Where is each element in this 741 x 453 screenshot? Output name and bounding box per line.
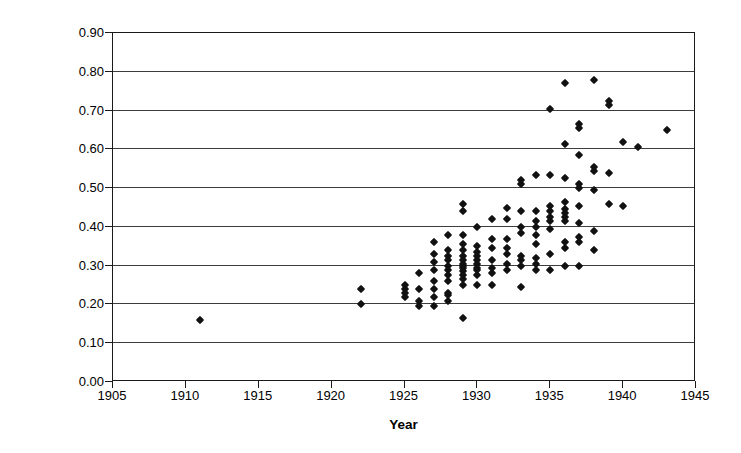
data-point bbox=[196, 316, 204, 324]
y-tick-label: 0.30 bbox=[52, 259, 104, 272]
data-point bbox=[590, 75, 598, 83]
data-point bbox=[517, 207, 525, 215]
data-point bbox=[488, 244, 496, 252]
data-point bbox=[561, 174, 569, 182]
data-point bbox=[444, 277, 452, 285]
data-point bbox=[488, 269, 496, 277]
data-point bbox=[502, 203, 510, 211]
data-point bbox=[546, 250, 554, 258]
data-point bbox=[619, 137, 627, 145]
y-tick-label: 0.50 bbox=[52, 181, 104, 194]
y-tick-mark bbox=[105, 71, 112, 72]
data-point bbox=[561, 261, 569, 269]
data-point bbox=[488, 281, 496, 289]
y-tick-mark bbox=[105, 226, 112, 227]
data-point bbox=[429, 292, 437, 300]
x-tick-mark bbox=[331, 381, 332, 388]
gridline bbox=[113, 342, 694, 343]
data-point bbox=[502, 234, 510, 242]
y-tick-mark bbox=[105, 110, 112, 111]
x-tick-mark bbox=[622, 381, 623, 388]
data-point bbox=[473, 271, 481, 279]
data-point bbox=[531, 230, 539, 238]
data-point bbox=[502, 215, 510, 223]
gridline bbox=[113, 265, 694, 266]
data-point bbox=[459, 230, 467, 238]
data-point bbox=[546, 170, 554, 178]
data-point bbox=[531, 207, 539, 215]
y-tick-label: 0.00 bbox=[52, 375, 104, 388]
x-tick-label: 1920 bbox=[301, 389, 361, 402]
data-point bbox=[488, 215, 496, 223]
x-axis-title: Year bbox=[112, 417, 695, 433]
data-point bbox=[575, 201, 583, 209]
data-point bbox=[590, 246, 598, 254]
data-point bbox=[575, 184, 583, 192]
data-point bbox=[531, 240, 539, 248]
gridline bbox=[113, 148, 694, 149]
x-tick-mark bbox=[112, 381, 113, 388]
y-tick-label: 0.90 bbox=[52, 26, 104, 39]
x-tick-label: 1915 bbox=[228, 389, 288, 402]
x-tick-label: 1945 bbox=[665, 389, 725, 402]
scatter-chart-figure: HP/cubic inch 0.000.100.200.300.400.500.… bbox=[0, 0, 741, 453]
data-point bbox=[415, 285, 423, 293]
y-tick-label: 0.70 bbox=[52, 104, 104, 117]
data-point bbox=[531, 170, 539, 178]
gridline bbox=[113, 303, 694, 304]
data-point bbox=[517, 261, 525, 269]
data-point bbox=[604, 199, 612, 207]
y-tick-mark bbox=[105, 265, 112, 266]
data-point bbox=[429, 238, 437, 246]
y-tick-mark bbox=[105, 342, 112, 343]
y-tick-mark bbox=[105, 32, 112, 33]
data-point bbox=[575, 238, 583, 246]
gridline bbox=[113, 226, 694, 227]
data-point bbox=[357, 300, 365, 308]
data-point bbox=[502, 265, 510, 273]
data-point bbox=[488, 234, 496, 242]
data-point bbox=[561, 139, 569, 147]
gridline bbox=[113, 110, 694, 111]
x-tick-label: 1930 bbox=[446, 389, 506, 402]
x-tick-label: 1910 bbox=[155, 389, 215, 402]
x-tick-mark bbox=[258, 381, 259, 388]
y-tick-label: 0.10 bbox=[52, 336, 104, 349]
gridline bbox=[113, 187, 694, 188]
data-point bbox=[619, 201, 627, 209]
data-point bbox=[517, 283, 525, 291]
data-point bbox=[561, 244, 569, 252]
data-point bbox=[502, 250, 510, 258]
data-point bbox=[633, 143, 641, 151]
x-tick-mark bbox=[695, 381, 696, 388]
data-point bbox=[663, 126, 671, 134]
x-tick-mark bbox=[476, 381, 477, 388]
data-point bbox=[590, 227, 598, 235]
data-point bbox=[604, 168, 612, 176]
x-tick-label: 1925 bbox=[374, 389, 434, 402]
y-tick-mark bbox=[105, 381, 112, 382]
data-point bbox=[459, 314, 467, 322]
plot-area bbox=[112, 32, 695, 381]
data-point bbox=[459, 281, 467, 289]
data-point bbox=[561, 79, 569, 87]
data-point bbox=[546, 265, 554, 273]
y-tick-label: 0.60 bbox=[52, 142, 104, 155]
x-tick-mark bbox=[185, 381, 186, 388]
gridline bbox=[113, 71, 694, 72]
y-tick-label: 0.80 bbox=[52, 65, 104, 78]
data-point bbox=[473, 223, 481, 231]
y-tick-label: 0.40 bbox=[52, 220, 104, 233]
data-point bbox=[546, 104, 554, 112]
data-point bbox=[473, 281, 481, 289]
data-point bbox=[429, 265, 437, 273]
x-tick-label: 1940 bbox=[592, 389, 652, 402]
y-tick-mark bbox=[105, 303, 112, 304]
y-tick-mark bbox=[105, 187, 112, 188]
y-tick-mark bbox=[105, 148, 112, 149]
data-point bbox=[429, 302, 437, 310]
y-tick-label: 0.20 bbox=[52, 297, 104, 310]
x-tick-mark bbox=[404, 381, 405, 388]
data-point bbox=[444, 230, 452, 238]
data-point bbox=[531, 265, 539, 273]
